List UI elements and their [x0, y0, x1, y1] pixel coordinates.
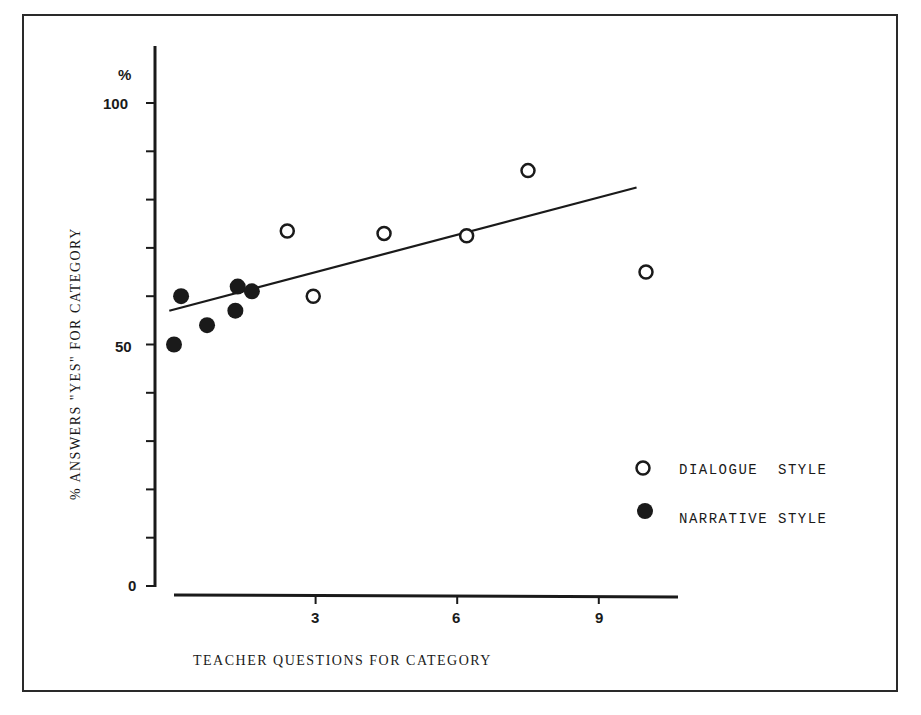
narrative-point	[244, 283, 260, 299]
dialogue-point	[640, 266, 653, 279]
open-circle-icon	[637, 462, 650, 475]
data-points	[166, 164, 653, 352]
dialogue-point	[522, 164, 535, 177]
legend: DIALOGUE STYLE NARRATIVE STYLE	[637, 462, 828, 528]
narrative-point	[227, 303, 243, 319]
x-tick-label-3: 3	[311, 609, 319, 626]
dialogue-point	[378, 227, 391, 240]
filled-circle-icon	[637, 503, 653, 519]
x-axis	[174, 595, 678, 597]
y-tick-label-0: 0	[128, 577, 136, 594]
narrative-point	[166, 337, 182, 353]
x-axis-title: TEACHER QUESTIONS FOR CATEGORY	[193, 653, 492, 668]
dialogue-point	[281, 224, 294, 237]
dialogue-point	[307, 290, 320, 303]
narrative-point	[230, 279, 246, 295]
x-tick-label-6: 6	[452, 609, 460, 626]
y-unit-label: %	[118, 66, 131, 83]
legend-dialogue-label: DIALOGUE STYLE	[679, 462, 828, 478]
y-tick-label-100: 100	[103, 95, 128, 112]
y-axis-title: % ANSWERS "YES" FOR CATEGORY	[68, 227, 83, 500]
legend-narrative-label: NARRATIVE STYLE	[679, 511, 828, 527]
x-tick-label-9: 9	[595, 609, 603, 626]
narrative-point	[199, 317, 215, 333]
scatter-chart: % 100 50 0 3 6 9 TEACHER QUESTIONS FOR C…	[0, 0, 921, 715]
narrative-point	[173, 288, 189, 304]
y-tick-label-50: 50	[115, 338, 132, 355]
dialogue-point	[460, 229, 473, 242]
